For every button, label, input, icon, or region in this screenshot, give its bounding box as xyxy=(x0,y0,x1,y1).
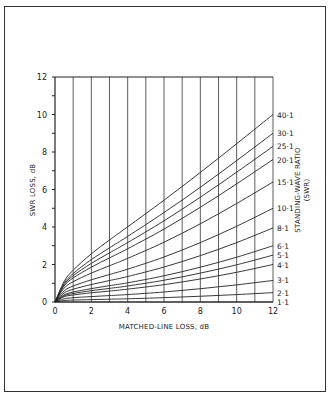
x-tick-label: 8 xyxy=(198,307,203,316)
curve-label: 2·1 xyxy=(277,289,289,298)
curve-label: 25·1 xyxy=(277,142,294,151)
curve-label: 6·1 xyxy=(277,242,289,251)
curve-label: 5·1 xyxy=(277,251,289,260)
y-axis-title: SWR LOSS, dB xyxy=(29,164,37,217)
right-axis-title: STANDING-WAVE RATIO xyxy=(294,147,302,233)
x-tick-label: 6 xyxy=(161,307,166,316)
curve-label: 8·1 xyxy=(277,224,289,233)
y-tick-label: 0 xyxy=(42,298,47,307)
y-tick-label: 2 xyxy=(42,261,47,270)
curve-label: 15·1 xyxy=(277,178,294,187)
right-axis-subtitle: (SWR) xyxy=(303,179,311,202)
curve-label: 30·1 xyxy=(277,129,294,138)
curve-label: 40·1 xyxy=(277,111,294,120)
curve-label: 3·1 xyxy=(277,276,289,285)
curve-labels: 40·130·125·120·115·110·18·16·15·14·13·12… xyxy=(277,111,294,308)
x-tick-label: 2 xyxy=(89,307,94,316)
y-tick-label: 10 xyxy=(37,111,47,120)
x-tick-label: 12 xyxy=(268,307,278,316)
x-tick-label: 10 xyxy=(232,307,242,316)
y-tick-label: 12 xyxy=(37,73,47,82)
x-tick-label: 4 xyxy=(125,307,130,316)
x-axis-title: MATCHED-LINE LOSS, dB xyxy=(119,323,209,331)
curve-label: 10·1 xyxy=(277,204,294,213)
curve-label: 1·1 xyxy=(277,298,289,307)
curve-label: 4·1 xyxy=(277,261,289,270)
curve-label: 20·1 xyxy=(277,156,294,165)
y-tick-label: 6 xyxy=(42,186,47,195)
y-tick-label: 8 xyxy=(42,148,47,157)
swr-loss-chart: 024681012024681012 40·130·125·120·115·11… xyxy=(0,0,332,402)
y-tick-label: 4 xyxy=(42,223,47,232)
x-tick-label: 0 xyxy=(52,307,57,316)
